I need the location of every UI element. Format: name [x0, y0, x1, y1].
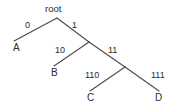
edge-label-1: 1 [72, 21, 77, 30]
binary-tree-diagram: root 0 1 10 11 110 111 A B C D [0, 0, 180, 109]
edge-label-110: 110 [85, 71, 99, 80]
edge-label-10: 10 [55, 46, 65, 55]
edge-root-to-A [14, 18, 57, 41]
edge-label-0: 0 [25, 21, 30, 30]
leaf-node-D: D [155, 93, 162, 103]
leaf-node-C: C [87, 93, 94, 103]
edge-n1-to-n11 [89, 42, 125, 67]
root-node-label: root [45, 4, 61, 14]
edge-label-111: 111 [151, 71, 165, 80]
leaf-node-B: B [51, 68, 58, 78]
leaf-node-A: A [13, 43, 20, 53]
edge-label-11: 11 [108, 46, 117, 55]
